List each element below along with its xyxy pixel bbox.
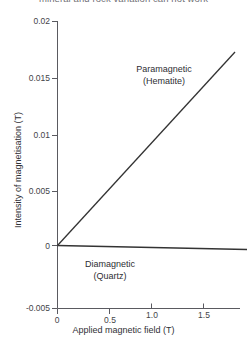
- series-annotation-paramagnetic-line2: (Hematite): [116, 75, 212, 87]
- x-tick-label-0.5: 0.5: [95, 316, 125, 325]
- series-annotation-diamagnetic-line1: Diamagnetic: [58, 258, 162, 270]
- y-axis-title: Intensity of magnetisation (T): [13, 90, 23, 250]
- chart-figure: mineral and rock variation can not work: [0, 0, 247, 350]
- y-tick-label-minus-0.005: -0.005: [4, 304, 50, 313]
- y-tick-label-0.02: 0.02: [6, 17, 50, 26]
- x-tick-label-1.0: 1.0: [137, 311, 167, 320]
- series-annotation-diamagnetic-line2: (Quartz): [58, 270, 162, 282]
- series-annotation-diamagnetic: Diamagnetic (Quartz): [58, 258, 162, 282]
- series-line-diamagnetic: [58, 246, 248, 250]
- series-annotation-paramagnetic: Paramagnetic (Hematite): [116, 63, 212, 87]
- series-annotation-paramagnetic-line1: Paramagnetic: [116, 63, 212, 75]
- x-axis-title: Applied magnetic field (T): [0, 325, 247, 335]
- plot-canvas: [0, 0, 247, 350]
- x-tick-label-1.5: 1.5: [189, 311, 219, 320]
- x-tick-label-0: 0: [42, 316, 72, 325]
- y-tick-marks: [52, 22, 58, 309]
- y-tick-label-0.015: 0.015: [6, 74, 50, 83]
